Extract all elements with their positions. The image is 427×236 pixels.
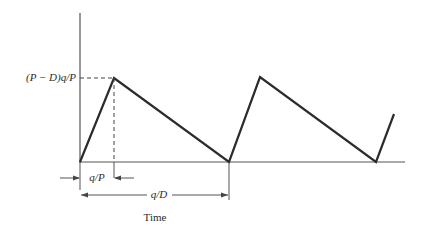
- qp-arrowhead-left-icon: [73, 176, 80, 181]
- inventory-diagram: (P − D)q/P q/P q/D Time: [0, 0, 427, 236]
- qp-arrowhead-right-icon: [114, 176, 121, 181]
- qd-arrowhead-right-icon: [221, 193, 228, 198]
- qd-arrowhead-left-icon: [81, 193, 88, 198]
- qp-label: q/P: [89, 171, 105, 183]
- max-inventory-label: (P − D)q/P: [26, 71, 76, 84]
- inventory-level-line: [80, 77, 394, 162]
- qd-label: q/D: [151, 188, 168, 200]
- time-axis-label: Time: [144, 211, 167, 223]
